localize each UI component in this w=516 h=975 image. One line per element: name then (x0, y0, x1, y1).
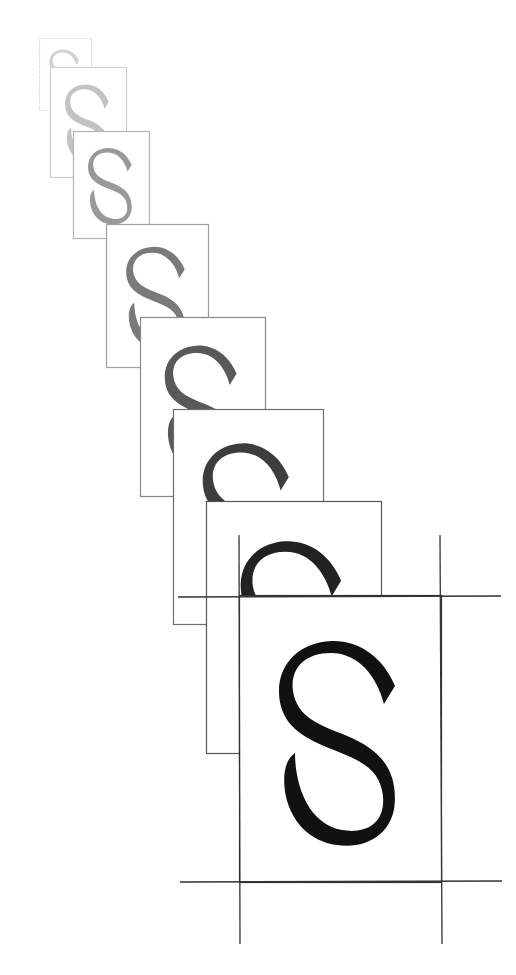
page-frame-3 (74, 132, 150, 239)
crop-mark-line (180, 881, 502, 882)
page-frame-8 (240, 596, 442, 883)
page-frames-diagram (0, 0, 516, 975)
frames-group (40, 39, 442, 883)
